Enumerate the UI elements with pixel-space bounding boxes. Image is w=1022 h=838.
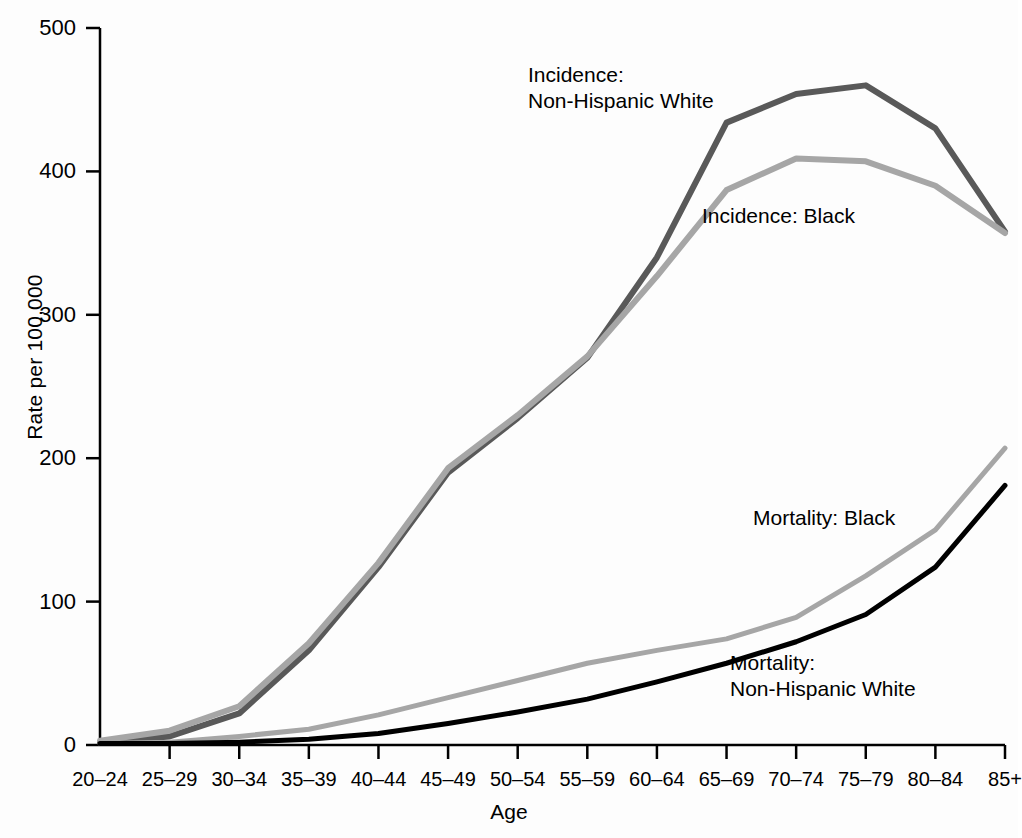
- y-tick-label: 200: [4, 447, 76, 469]
- series-label: Mortality: Non-Hispanic White: [730, 650, 916, 702]
- series-line: [100, 85, 1005, 742]
- x-tick-label: 55–59: [559, 769, 615, 789]
- series-lines: [100, 85, 1005, 743]
- series-label: Incidence: Black: [702, 203, 855, 229]
- x-tick-marks: [170, 745, 1005, 759]
- x-tick-label: 25–29: [142, 769, 198, 789]
- x-tick-label: 60–64: [629, 769, 685, 789]
- y-tick-label: 400: [4, 160, 76, 182]
- x-axis-title: Age: [0, 800, 1018, 824]
- y-tick-label: 500: [4, 17, 76, 39]
- x-tick-label: 75–79: [838, 769, 894, 789]
- x-tick-label: 45–49: [420, 769, 476, 789]
- x-tick-label: 85+: [988, 769, 1022, 789]
- x-tick-label: 80–84: [908, 769, 964, 789]
- x-tick-label: 30–34: [211, 769, 267, 789]
- y-tick-label: 0: [4, 734, 76, 756]
- x-tick-label: 70–74: [768, 769, 824, 789]
- x-tick-label: 50–54: [490, 769, 546, 789]
- x-tick-label: 40–44: [351, 769, 407, 789]
- y-tick-label: 100: [4, 591, 76, 613]
- y-tick-marks: [86, 28, 100, 745]
- x-tick-label: 20–24: [72, 769, 128, 789]
- y-tick-label: 300: [4, 304, 76, 326]
- series-label: Mortality: Black: [753, 505, 895, 531]
- x-tick-label: 35–39: [281, 769, 337, 789]
- series-label: Incidence: Non-Hispanic White: [528, 62, 714, 114]
- x-tick-label: 65–69: [699, 769, 755, 789]
